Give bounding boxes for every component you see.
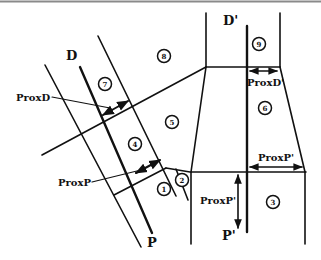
proxP-leader-line [92, 169, 145, 182]
label-P-prime: P' [222, 228, 236, 243]
region-8-marker: 8 [158, 50, 171, 63]
label-D: D [66, 48, 77, 63]
proxP-arrow [136, 160, 160, 173]
label-D-prime: D' [223, 13, 238, 28]
region-1-marker: 1 [158, 183, 171, 196]
svg-text:5: 5 [170, 118, 175, 127]
proxD-leader-line [52, 97, 110, 108]
label-ProxP: ProxP [58, 177, 91, 188]
region-3-marker: 3 [267, 196, 280, 209]
svg-text:2: 2 [180, 176, 185, 185]
svg-text:7: 7 [103, 80, 108, 89]
region-4-marker: 4 [129, 138, 142, 151]
trapezoid-left-side [191, 67, 206, 172]
upper-diagonal-line [42, 67, 206, 155]
label-ProxP-prime-vertical: ProxP' [200, 195, 236, 206]
svg-text:1: 1 [162, 185, 167, 194]
region-7-marker: 7 [99, 78, 112, 91]
region-9-marker: 9 [253, 38, 266, 51]
road-D-P-centerline [80, 67, 152, 233]
svg-text:3: 3 [271, 198, 276, 207]
svg-text:8: 8 [162, 52, 167, 61]
proximity-diagram: D D' P P' ProxD ProxD' ProxP ProxP' Prox… [0, 0, 321, 260]
label-ProxD: ProxD [16, 92, 50, 103]
proxD-arrow [103, 101, 128, 115]
left-lane-outer-line [45, 65, 141, 247]
label-ProxP-prime-horizontal: ProxP' [258, 152, 294, 163]
svg-text:9: 9 [257, 40, 262, 49]
region-6-marker: 6 [259, 102, 272, 115]
label-P: P [147, 235, 157, 250]
region-2-marker: 2 [176, 174, 189, 187]
svg-text:6: 6 [263, 104, 268, 113]
junction-link-line [166, 168, 190, 172]
svg-text:4: 4 [133, 140, 138, 149]
label-ProxD-prime: ProxD' [247, 77, 284, 88]
region-5-marker: 5 [166, 116, 179, 129]
